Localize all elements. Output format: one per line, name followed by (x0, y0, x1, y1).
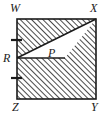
region-label-P: P (48, 47, 55, 59)
point-label-R: R (3, 52, 10, 64)
vertex-label-X: X (90, 2, 97, 14)
vertex-label-W: W (10, 2, 20, 14)
vertex-label-Y: Y (91, 101, 98, 113)
vertex-label-Z: Z (12, 101, 19, 113)
geometry-figure: W X Y Z R P (0, 0, 107, 118)
